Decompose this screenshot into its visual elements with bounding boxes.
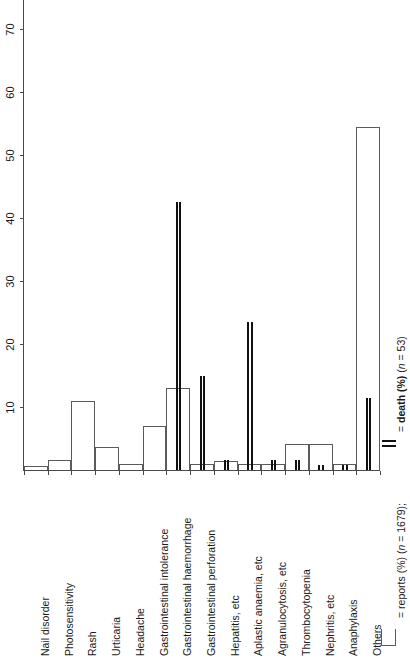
reports-bar bbox=[309, 444, 333, 470]
y-axis-tick-label: 50 bbox=[2, 144, 18, 166]
death-line bbox=[271, 460, 273, 470]
y-axis-tick-mark bbox=[20, 407, 24, 408]
y-axis-tick-mark bbox=[20, 218, 24, 219]
y-axis-tick-label-text: 40 bbox=[5, 212, 16, 224]
death-line bbox=[247, 322, 249, 470]
x-axis-tick-mark bbox=[214, 471, 215, 475]
death-line bbox=[342, 465, 344, 470]
legend-open-box-swatch-icon bbox=[381, 629, 396, 646]
death-line bbox=[227, 460, 229, 470]
y-axis-tick-label-text: 50 bbox=[5, 149, 16, 161]
bar-chart: 10203040506070 Nail disorderPhotosensiti… bbox=[0, 0, 410, 664]
y-axis-tick-label: 20 bbox=[2, 333, 18, 355]
death-line bbox=[318, 465, 320, 470]
y-axis-tick-label: 10 bbox=[2, 396, 18, 418]
category-label: Gastrointestinal haemorrhage bbox=[182, 518, 193, 656]
legend-double-line-swatch-icon-b bbox=[382, 445, 396, 447]
x-axis-tick-mark bbox=[119, 471, 120, 475]
death-line bbox=[179, 202, 181, 470]
category-label: Headache bbox=[135, 608, 146, 656]
death-line bbox=[322, 465, 324, 470]
reports-bar bbox=[24, 466, 48, 470]
death-line bbox=[274, 460, 276, 470]
x-axis-line bbox=[24, 470, 380, 471]
death-line bbox=[200, 376, 202, 471]
category-label: Gastrointestinal intolerance bbox=[159, 529, 170, 656]
legend-reports-label: = reports (%) (n = 1679); bbox=[396, 503, 407, 618]
y-axis-tick-mark bbox=[20, 344, 24, 345]
category-label: Hepatitis, etc bbox=[230, 595, 241, 656]
y-axis-tick-mark bbox=[20, 92, 24, 93]
reports-bar bbox=[261, 464, 285, 470]
category-label: Gastrointestinal perforation bbox=[206, 530, 217, 656]
reports-bar bbox=[285, 444, 309, 470]
category-label: Photosensitivity bbox=[64, 583, 75, 656]
x-axis-tick-mark bbox=[285, 471, 286, 475]
x-axis-tick-mark bbox=[309, 471, 310, 475]
x-axis-tick-mark bbox=[143, 471, 144, 475]
x-axis-tick-mark bbox=[356, 471, 357, 475]
reports-bar bbox=[143, 426, 167, 470]
y-axis-tick-label-text: 10 bbox=[5, 401, 16, 413]
y-axis-tick-label: 40 bbox=[2, 207, 18, 229]
category-label: Nail disorder bbox=[40, 597, 51, 656]
reports-bar bbox=[190, 464, 214, 470]
legend-death-label: = death (%) (n = 53) bbox=[396, 336, 407, 432]
category-label: Urticaria bbox=[111, 617, 122, 656]
y-axis-tick-label: 30 bbox=[2, 270, 18, 292]
y-axis-line bbox=[23, 0, 24, 471]
death-line bbox=[298, 460, 300, 470]
reports-bar bbox=[214, 461, 238, 470]
category-label: Nephritis, etc bbox=[325, 595, 336, 656]
death-line bbox=[251, 322, 253, 470]
death-line bbox=[295, 460, 297, 470]
reports-bar bbox=[48, 460, 72, 470]
y-axis-tick-label-text: 60 bbox=[5, 86, 16, 98]
x-axis-tick-mark bbox=[380, 471, 381, 475]
death-line bbox=[224, 460, 226, 470]
y-axis-tick-mark bbox=[20, 29, 24, 30]
category-label: Agranulocytosis, etc bbox=[277, 562, 288, 656]
category-label: Thrombocytopenia bbox=[301, 569, 312, 656]
death-line bbox=[203, 376, 205, 471]
death-line bbox=[366, 398, 368, 470]
death-line bbox=[346, 465, 348, 470]
y-axis-tick-label-text: 30 bbox=[5, 275, 16, 287]
x-axis-tick-mark bbox=[71, 471, 72, 475]
y-axis-tick-label: 70 bbox=[2, 18, 18, 40]
reports-bar bbox=[238, 464, 262, 470]
death-line bbox=[176, 202, 178, 470]
reports-bar bbox=[333, 464, 357, 470]
x-axis-tick-mark bbox=[333, 471, 334, 475]
reports-bar bbox=[119, 464, 143, 470]
reports-bar bbox=[166, 388, 190, 470]
reports-bar bbox=[356, 127, 380, 470]
x-axis-tick-mark bbox=[190, 471, 191, 475]
x-axis-tick-mark bbox=[48, 471, 49, 475]
y-axis-tick-label-text: 70 bbox=[5, 23, 16, 35]
x-axis-tick-mark bbox=[261, 471, 262, 475]
category-label: Anaphylaxis bbox=[348, 599, 359, 656]
death-line bbox=[369, 398, 371, 470]
x-axis-tick-mark bbox=[24, 471, 25, 475]
reports-bar bbox=[71, 401, 95, 470]
x-axis-tick-mark bbox=[166, 471, 167, 475]
y-axis-tick-label-text: 20 bbox=[5, 338, 16, 350]
y-axis-tick-mark bbox=[20, 155, 24, 156]
category-label: Rash bbox=[87, 631, 98, 656]
x-axis-tick-mark bbox=[238, 471, 239, 475]
legend-double-line-swatch-icon-a bbox=[382, 440, 396, 442]
y-axis-tick-mark bbox=[20, 281, 24, 282]
reports-bar bbox=[95, 447, 119, 470]
x-axis-tick-mark bbox=[95, 471, 96, 475]
y-axis-tick-label: 60 bbox=[2, 81, 18, 103]
category-label: Aplastic anaemia, etc bbox=[253, 556, 264, 656]
